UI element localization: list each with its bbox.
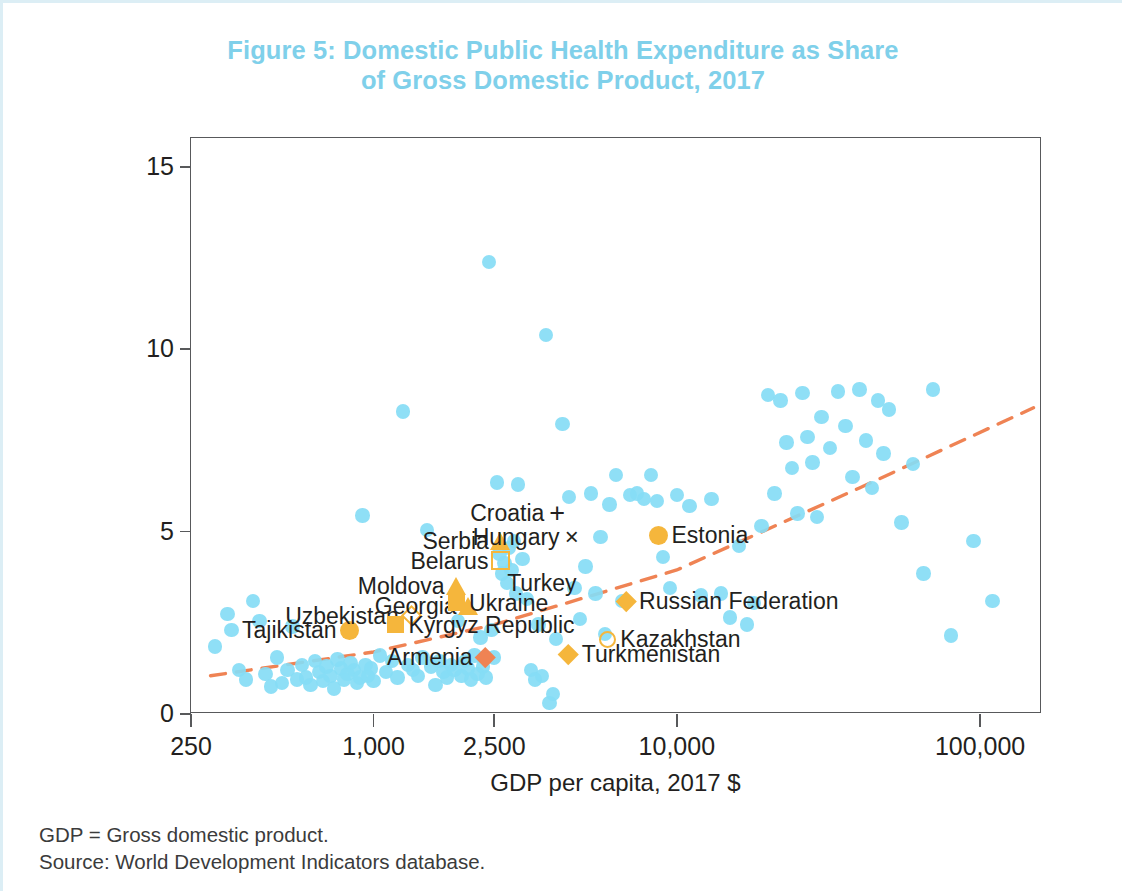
scatter-point: [966, 534, 980, 548]
scatter-point: [584, 486, 598, 500]
x-axis-label: GDP per capita, 2017 $: [190, 769, 1041, 797]
y-tick-label: 5: [160, 517, 174, 546]
y-tick-label: 15: [146, 152, 174, 181]
scatter-point: [366, 674, 380, 688]
scatter-point: [852, 382, 866, 396]
note-gdp: GDP = Gross domestic product.: [39, 821, 485, 848]
x-tick-mark: [373, 714, 375, 727]
country-label-turkey: Turkey: [507, 570, 576, 596]
scatter-point: [767, 486, 781, 500]
plot-canvas: TajikistanUzbekistanKyrgyz RepublicMoldo…: [191, 138, 1042, 714]
scatter-point: [790, 506, 804, 520]
scatter-point: [479, 670, 493, 684]
scatter-point: [650, 494, 664, 508]
y-tick-label: 10: [146, 334, 174, 363]
scatter-point: [916, 566, 930, 580]
scatter-point: [224, 623, 238, 637]
figure-title: Figure 5: Domestic Public Health Expendi…: [133, 35, 993, 95]
scatter-point: [704, 492, 718, 506]
scatter-point: [985, 594, 999, 608]
scatter-point: [239, 672, 253, 686]
scatter-point: [220, 607, 234, 621]
x-tick-label: 250: [170, 732, 212, 761]
x-tick-label: 2,500: [463, 732, 526, 761]
marker-ukraine: [448, 594, 465, 611]
scatter-point: [800, 430, 814, 444]
figure-notes: GDP = Gross domestic product. Source: Wo…: [39, 821, 485, 875]
scatter-point: [588, 586, 602, 600]
marker-estonia: [649, 526, 668, 545]
scatter-point: [831, 384, 845, 398]
scatter-point: [754, 519, 768, 533]
x-tick-mark: [676, 714, 678, 727]
country-label-turkmenistan: Turkmenistan: [582, 641, 720, 667]
scatter-point: [894, 515, 908, 529]
country-label-armenia: Armenia: [387, 644, 473, 670]
scatter-point: [876, 446, 890, 460]
scatter-point: [208, 639, 222, 653]
x-tick-label: 100,000: [935, 732, 1025, 761]
country-label-croatia: Croatia: [470, 500, 544, 526]
scatter-point: [838, 419, 852, 433]
scatter-point: [773, 393, 787, 407]
scatter-point: [355, 508, 369, 522]
scatter-point: [490, 475, 504, 489]
scatter-point: [546, 687, 560, 701]
scatter-point: [944, 628, 958, 642]
figure-page: Figure 5: Domestic Public Health Expendi…: [0, 0, 1122, 891]
y-axis-label: Domestic public health expenditure as sh…: [0, 0, 23, 123]
scatter-point: [515, 552, 529, 566]
figure-title-line2: of Gross Domestic Product, 2017: [133, 65, 993, 95]
y-tick-label: 0: [160, 699, 174, 728]
scatter-point: [779, 435, 793, 449]
scatter-point: [390, 670, 404, 684]
figure-title-line1: Figure 5: Domestic Public Health Expendi…: [227, 36, 898, 64]
marker-hungary: ×: [565, 525, 579, 549]
country-label-hungary: Hungary: [473, 524, 560, 550]
scatter-point: [859, 433, 873, 447]
scatter-point: [805, 455, 819, 469]
scatter-point: [882, 402, 896, 416]
scatter-point: [602, 497, 616, 511]
x-tick-label: 10,000: [639, 732, 715, 761]
y-tick-mark: [180, 531, 191, 533]
scatter-point: [926, 382, 940, 396]
x-tick-mark: [190, 714, 192, 727]
x-tick-mark: [493, 714, 495, 727]
scatter-point: [845, 470, 859, 484]
scatter-point: [511, 477, 525, 491]
plot-area: TajikistanUzbekistanKyrgyz RepublicMoldo…: [190, 137, 1041, 713]
scatter-point: [482, 255, 496, 269]
country-label-georgia: Georgia: [375, 593, 457, 619]
scatter-point: [396, 404, 410, 418]
x-tick-mark: [979, 714, 981, 727]
marker-belarus: [491, 551, 510, 570]
note-source: Source: World Development Indicators dat…: [39, 848, 485, 875]
scatter-point: [740, 617, 754, 631]
scatter-point: [555, 417, 569, 431]
y-tick-mark: [180, 166, 191, 168]
scatter-point: [593, 530, 607, 544]
scatter-point: [578, 559, 592, 573]
scatter-point: [270, 650, 284, 664]
scatter-point: [411, 669, 425, 683]
y-tick-mark: [180, 348, 191, 350]
country-label-estonia: Estonia: [671, 522, 748, 548]
scatter-point: [682, 499, 696, 513]
x-tick-label: 1,000: [342, 732, 405, 761]
country-label-russian-federation: Russian Federation: [639, 588, 838, 614]
scatter-point: [814, 410, 828, 424]
scatter-point: [539, 328, 553, 342]
